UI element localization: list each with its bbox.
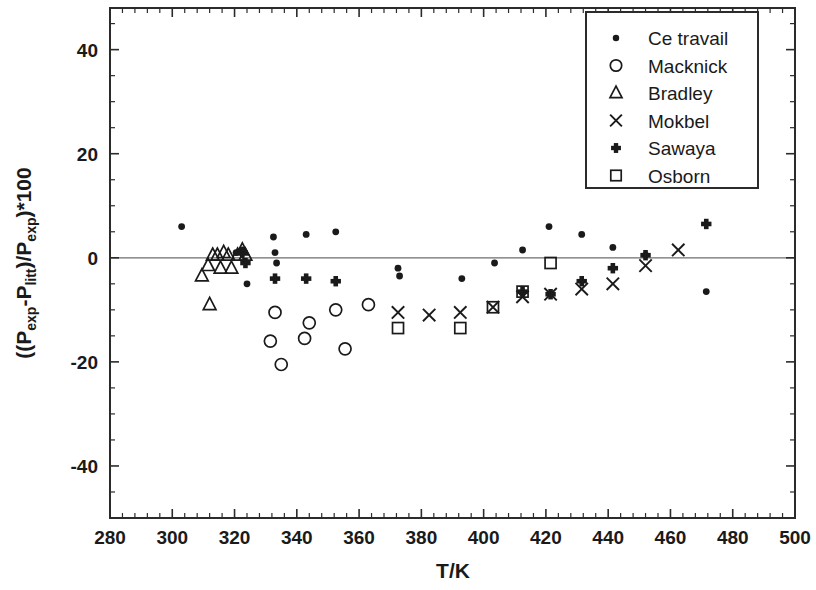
x-tick-label: 360 <box>343 527 375 548</box>
y-tick-label: 0 <box>87 248 98 269</box>
data-point-filled-circle <box>395 265 402 272</box>
data-point-filled-circle <box>703 288 710 295</box>
data-point-filled-circle <box>546 223 553 230</box>
x-tick-label: 460 <box>655 527 687 548</box>
x-tick-label: 440 <box>592 527 624 548</box>
legend-entry-label: Osborn <box>648 166 710 187</box>
data-point-filled-circle <box>273 260 280 267</box>
y-tick-label: 40 <box>77 40 98 61</box>
y-axis-title-sub-exp-1: exp <box>23 307 39 331</box>
x-tick-label: 480 <box>717 527 749 548</box>
x-tick-label: 400 <box>468 527 500 548</box>
data-point-filled-circle <box>491 260 498 267</box>
legend-entry-label: Sawaya <box>648 138 716 159</box>
x-tick-label: 420 <box>530 527 562 548</box>
legend-entry-label: Bradley <box>648 83 713 104</box>
y-tick-label: 20 <box>77 144 98 165</box>
y-axis-title-prefix: ((P <box>12 331 35 359</box>
legend-entry-label: Mokbel <box>648 111 709 132</box>
x-tick-label: 320 <box>219 527 251 548</box>
y-axis-title-mid-2: )/P <box>12 242 35 269</box>
x-axis-title: T/K <box>436 559 470 582</box>
legend-entry-label: Macknick <box>648 56 728 77</box>
data-point-filled-circle <box>613 35 619 41</box>
legend: Ce travailMacknickBradleyMokbelSawayaOsb… <box>586 12 758 188</box>
data-point-filled-circle <box>609 244 616 251</box>
x-tick-label: 340 <box>281 527 313 548</box>
y-tick-label: -40 <box>71 456 98 477</box>
data-point-filled-circle <box>303 231 310 238</box>
data-point-filled-circle <box>178 223 185 230</box>
x-tick-label: 280 <box>94 527 126 548</box>
y-axis-title-suffix: )*100 <box>12 167 35 217</box>
x-tick-label: 500 <box>779 527 811 548</box>
data-point-filled-circle <box>272 249 279 256</box>
y-axis-title-sub-litt: litt <box>23 268 39 285</box>
data-point-filled-circle <box>396 273 403 280</box>
data-point-filled-circle <box>244 280 251 287</box>
data-point-filled-circle <box>270 234 277 241</box>
data-point-filled-circle <box>578 231 585 238</box>
chart-canvas: 280300320340360380400420440460480500 402… <box>0 0 816 590</box>
y-tick-label: -20 <box>71 352 98 373</box>
scatter-chart-figure: 280300320340360380400420440460480500 402… <box>0 0 816 590</box>
x-tick-label: 380 <box>406 527 438 548</box>
data-point-filled-circle <box>519 247 526 254</box>
y-axis-title-mid-1: -P <box>12 286 35 307</box>
data-point-filled-circle <box>458 275 465 282</box>
data-point-filled-circle <box>332 228 339 235</box>
legend-entry-label: Ce travail <box>648 28 728 49</box>
y-axis-title-sub-exp-2: exp <box>23 218 39 242</box>
x-tick-label: 300 <box>156 527 188 548</box>
